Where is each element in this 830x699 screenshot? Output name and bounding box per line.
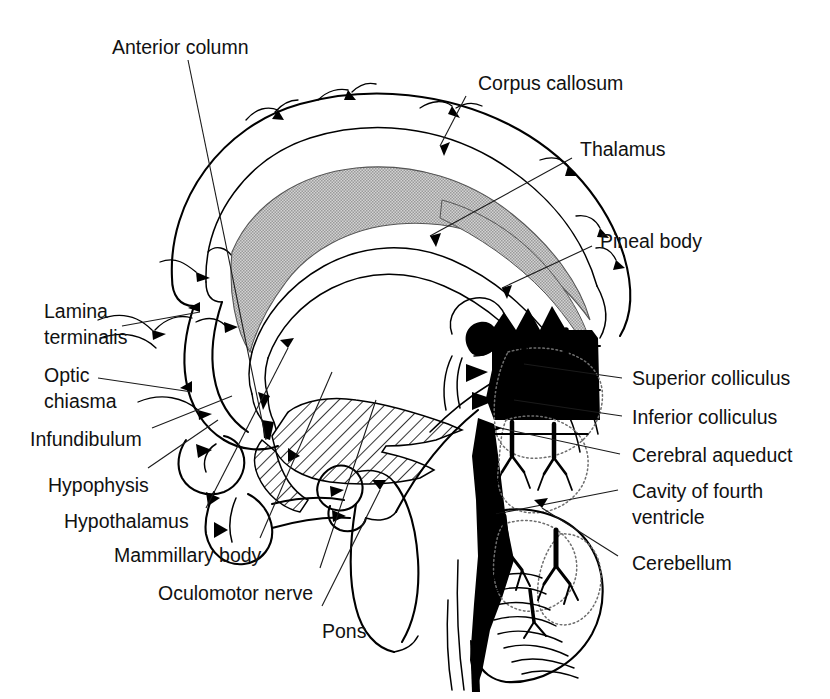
- label-thalamus: Thalamus: [580, 138, 666, 160]
- label-lamina-terminalis-line1: Lamina: [44, 300, 108, 322]
- figure-background: [0, 0, 830, 699]
- label-cerebellum: Cerebellum: [632, 552, 732, 574]
- label-cavity-fourth-ventricle-line1: Cavity of fourth: [632, 480, 763, 502]
- label-hypophysis: Hypophysis: [48, 474, 149, 496]
- label-oculomotor-nerve: Oculomotor nerve: [158, 582, 313, 604]
- label-optic-chiasma-line1: Optic: [44, 364, 90, 386]
- label-lamina-terminalis-line2: terminalis: [44, 326, 128, 348]
- label-optic-chiasma-line2: chiasma: [44, 390, 117, 412]
- label-inferior-colliculus: Inferior colliculus: [632, 406, 777, 428]
- label-anterior-column: Anterior column: [112, 36, 249, 58]
- label-cavity-fourth-ventricle-line2: ventricle: [632, 506, 705, 528]
- label-mammillary-body: Mammillary body: [114, 544, 262, 566]
- label-hypothalamus: Hypothalamus: [64, 510, 189, 532]
- label-pineal-body: Pineal body: [600, 230, 702, 252]
- label-corpus-callosum: Corpus callosum: [478, 72, 623, 94]
- label-cerebral-aqueduct: Cerebral aqueduct: [632, 444, 793, 466]
- label-pons: Pons: [322, 620, 367, 642]
- brain-sagittal-figure: Anterior column Corpus callosum Thalamus…: [0, 0, 830, 699]
- label-superior-colliculus: Superior colliculus: [632, 367, 790, 389]
- brain-sagittal-diagram: Anterior column Corpus callosum Thalamus…: [0, 0, 830, 699]
- label-infundibulum: Infundibulum: [30, 428, 142, 450]
